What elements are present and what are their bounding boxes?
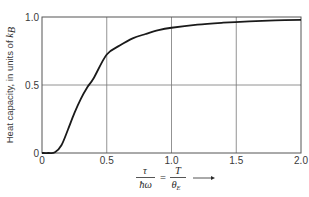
svg-text:τ: τ xyxy=(143,165,148,176)
x-tick-label: 0 xyxy=(39,155,45,166)
svg-text:θE: θE xyxy=(171,179,180,191)
y-tick-label: 0.5 xyxy=(25,80,39,91)
x-tick-label: 2.0 xyxy=(294,155,308,166)
y-tick-label: 1.0 xyxy=(25,12,39,23)
x-axis-label: τ ħω = T θE xyxy=(136,165,215,191)
heat-capacity-chart: 00.51.01.52.0 00.51.0 Heat capacity, in … xyxy=(0,0,309,197)
arrow-right-icon xyxy=(193,176,215,180)
y-tick-label: 0 xyxy=(33,148,39,159)
svg-text:T: T xyxy=(175,165,182,176)
svg-text:=: = xyxy=(160,172,166,183)
y-axis-label: Heat capacity, in units of kB xyxy=(4,26,17,143)
svg-text:ħω: ħω xyxy=(139,179,152,190)
y-tick-labels: 00.51.0 xyxy=(25,12,39,159)
x-tick-labels: 00.51.01.52.0 xyxy=(39,155,308,166)
x-tick-label: 0.5 xyxy=(100,155,114,166)
grid-lines xyxy=(42,17,301,153)
x-tick-label: 1.5 xyxy=(229,155,243,166)
